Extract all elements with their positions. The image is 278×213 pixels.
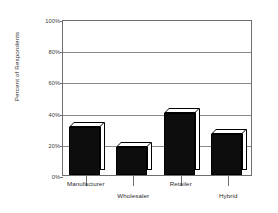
bar-front-face [211,134,242,175]
bar [116,142,147,175]
y-tick-label: 20% [49,143,61,149]
x-tick-label: Hybrid [219,192,237,199]
y-tick-label: 40% [49,112,61,118]
bar-front-face [116,147,147,175]
plot-area: 0%20%40%60%80%100% [62,20,252,176]
bar-chart: Percent of Respondents 0%20%40%60%80%100… [0,0,278,213]
bar [164,108,195,175]
x-tick-label: Manufacturer [67,180,105,187]
y-tick-label: 0% [52,174,60,180]
bar-side-face [195,108,200,170]
y-axis-title: Percent of Respondents [13,7,20,127]
bar-side-face [242,129,247,170]
bar-front-face [69,127,100,175]
y-tick-label: 80% [49,49,61,55]
x-tick-label: Wholesaler [117,192,149,199]
y-tick-mark [60,177,63,178]
x-tick-mark [228,176,229,186]
bar-side-face [100,122,105,170]
bar [69,122,100,175]
bar-front-face [164,113,195,175]
y-tick-label: 100% [45,18,60,24]
y-tick-label: 60% [49,80,61,86]
x-tick-mark [133,176,134,186]
bars-layer [63,21,251,175]
x-tick-label: Retailer [170,180,192,187]
bar [211,129,242,175]
